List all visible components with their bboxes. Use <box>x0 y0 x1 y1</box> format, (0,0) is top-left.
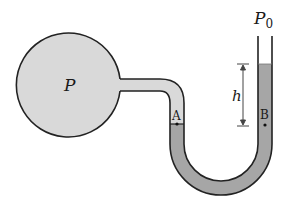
atmospheric-pressure-label: P0 <box>253 8 273 31</box>
gas-region <box>17 33 184 137</box>
height-label: h <box>232 87 242 105</box>
manometer-liquid <box>170 64 272 195</box>
point-a-label: A <box>171 109 181 123</box>
bulb-pressure-label: P <box>63 75 76 95</box>
point-b-label: B <box>260 108 269 122</box>
point-b-marker <box>263 123 266 126</box>
manometer-diagram: P P0 h A B <box>0 0 292 206</box>
tube-outer-wall <box>120 36 258 181</box>
